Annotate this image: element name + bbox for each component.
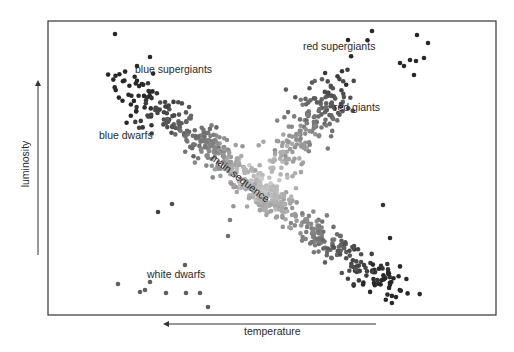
left-arrowhead-icon: [163, 321, 169, 327]
label-red-giants: red giants: [334, 101, 380, 113]
label-red-supergiants: red supergiants: [303, 40, 375, 52]
label-blue-dwarfs: blue dwarfs: [99, 129, 153, 141]
hr-diagram-chart: [0, 0, 514, 352]
up-arrowhead-icon: [35, 80, 41, 86]
label-blue-supergiants: blue supergiants: [135, 63, 212, 75]
label-white-dwarfs: white dwarfs: [147, 268, 205, 280]
y-axis-title: luminosity: [19, 141, 31, 188]
x-axis-title: temperature: [244, 325, 301, 337]
